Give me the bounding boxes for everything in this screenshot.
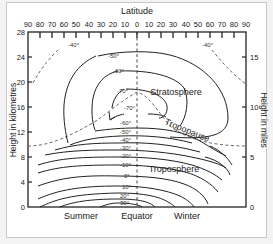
- tick-label: 70: [218, 20, 226, 29]
- tick-label: 5: [250, 153, 254, 162]
- isotherm-label: -70°: [124, 105, 136, 111]
- tick-label: 0: [21, 203, 25, 212]
- isotherm-minus40-upper: [33, 50, 246, 84]
- left-axis-title: Height in kilometres: [8, 83, 18, 158]
- tick-label: 60: [60, 20, 68, 29]
- isotherm-label: -40°: [120, 137, 132, 143]
- equator-label: Equator: [121, 211, 153, 221]
- tick-label: 40: [182, 20, 190, 29]
- isotherm-label: -50°: [120, 129, 132, 135]
- isotherm-label: -10°: [120, 162, 132, 168]
- tick-label: 70: [48, 20, 56, 29]
- isotherm-label: -70°: [117, 88, 129, 94]
- right-axis-title: Height in miles: [259, 92, 269, 148]
- top-axis-tick-labels: 90 80 70 60 50 40 30 20 10 0 10 20 30 40…: [24, 20, 250, 29]
- tick-label: 20: [157, 20, 165, 29]
- isotherm-label: -40°: [202, 42, 214, 48]
- tick-label: 60: [206, 20, 214, 29]
- tick-label: 50: [194, 20, 202, 29]
- stratosphere-label: Stratosphere: [150, 87, 202, 97]
- isotherm-label: -60°: [113, 68, 125, 74]
- isotherm-label: 0°: [124, 173, 130, 179]
- tick-label: 28: [17, 28, 25, 37]
- troposphere-label: Troposphere: [149, 164, 200, 174]
- isotherm-label: 30°: [120, 200, 130, 206]
- atmosphere-temperature-diagram: Latitude 90 80 70 60 50 40 30 20 10 0 10…: [0, 0, 273, 244]
- isotherm-label: -50°: [108, 53, 120, 59]
- isotherm-label: -60°: [120, 120, 132, 126]
- tick-label: 4: [21, 178, 25, 187]
- winter-label: Winter: [174, 211, 200, 221]
- isotherm-label: -40°: [68, 42, 80, 48]
- tick-label: 15: [250, 53, 258, 62]
- tick-label: 8: [21, 153, 25, 162]
- tick-label: 80: [230, 20, 238, 29]
- tick-label: 0: [135, 20, 139, 29]
- tick-label: 30: [169, 20, 177, 29]
- tick-label: 80: [36, 20, 44, 29]
- tick-label: 40: [85, 20, 93, 29]
- isotherm-label: 10°: [122, 184, 132, 190]
- tick-label: 10: [250, 103, 258, 112]
- tick-label: 50: [72, 20, 80, 29]
- tick-label: 24: [17, 53, 25, 62]
- tick-label: 0: [250, 203, 254, 212]
- tick-label: 10: [121, 20, 129, 29]
- isotherm-label: -20°: [120, 153, 132, 159]
- tick-label: 30: [97, 20, 105, 29]
- top-axis-title: Latitude: [121, 6, 153, 16]
- tick-label: 20: [109, 20, 117, 29]
- isotherm-label: 20°: [120, 193, 130, 199]
- summer-label: Summer: [64, 211, 98, 221]
- isotherm-label: -30°: [120, 145, 132, 151]
- tick-label: 90: [242, 20, 250, 29]
- right-axis-tick-labels: 0 5 10 15: [250, 53, 258, 212]
- tick-label: 10: [145, 20, 153, 29]
- tick-label: 90: [24, 20, 32, 29]
